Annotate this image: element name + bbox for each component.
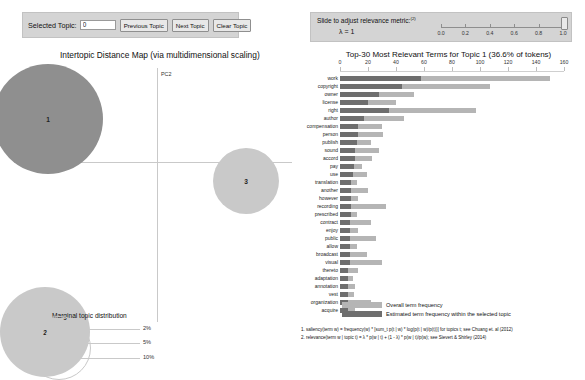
bar-topic-frequency[interactable] (340, 236, 350, 241)
term-label[interactable]: accord (323, 155, 338, 162)
term-bar-row[interactable]: author (296, 115, 585, 122)
x-tick-label: 20 (365, 59, 371, 65)
term-label[interactable]: broadcast (316, 251, 338, 258)
bar-topic-frequency[interactable] (340, 180, 351, 185)
term-label[interactable]: vest (329, 291, 338, 298)
bar-topic-frequency[interactable] (340, 252, 350, 257)
bar-topic-frequency[interactable] (340, 148, 355, 153)
slider-tick-label: 0.0 (437, 30, 444, 36)
term-label[interactable]: contract (320, 219, 338, 226)
term-bar-row[interactable]: accord (296, 155, 585, 162)
term-bar-row[interactable]: broadcast (296, 251, 585, 258)
previous-topic-button[interactable]: Previous Topic (120, 19, 168, 32)
term-label[interactable]: prescribed (315, 211, 338, 218)
bar-topic-frequency[interactable] (340, 116, 364, 121)
term-bar-row[interactable]: adaptation (296, 275, 585, 282)
bar-topic-frequency[interactable] (340, 212, 351, 217)
bar-topic-frequency[interactable] (340, 244, 350, 249)
bar-topic-frequency[interactable] (340, 108, 389, 113)
term-bar-row[interactable]: enjoy (296, 227, 585, 234)
term-bar-row[interactable]: copyright (296, 83, 585, 90)
term-label[interactable]: adaptation (315, 275, 338, 282)
term-bar-row[interactable]: compensation (296, 123, 585, 130)
term-label[interactable]: translation (315, 179, 338, 186)
term-bar-row[interactable]: person (296, 131, 585, 138)
term-label[interactable]: visual (325, 259, 338, 266)
term-bar-row[interactable]: translation (296, 179, 585, 186)
term-label[interactable]: author (324, 115, 338, 122)
term-bar-row[interactable]: recording (296, 203, 585, 210)
term-label[interactable]: organization (311, 299, 338, 306)
slider-track[interactable] (441, 27, 563, 28)
term-bar-row[interactable]: right (296, 107, 585, 114)
term-label[interactable]: work (327, 75, 338, 82)
term-label[interactable]: another (321, 187, 338, 194)
bar-topic-frequency[interactable] (340, 124, 358, 129)
legend-label-overall: Overall term frequency (386, 302, 443, 308)
term-label[interactable]: thereto (322, 267, 338, 274)
term-label[interactable]: acquire (322, 307, 338, 314)
term-bar-row[interactable]: public (296, 235, 585, 242)
term-bar-row[interactable]: license (296, 99, 585, 106)
term-label[interactable]: compensation (307, 123, 338, 130)
size-legend-label-5pct: 5% (143, 339, 151, 345)
term-bar-row[interactable]: allow (296, 243, 585, 250)
term-label[interactable]: owner (324, 91, 338, 98)
term-bar-row[interactable]: publish (296, 139, 585, 146)
bar-topic-frequency[interactable] (340, 100, 368, 105)
bar-topic-frequency[interactable] (340, 156, 355, 161)
bar-topic-frequency[interactable] (340, 276, 348, 281)
bar-topic-frequency[interactable] (340, 92, 379, 97)
bar-topic-frequency[interactable] (340, 164, 354, 169)
x-tick (396, 67, 397, 71)
term-label[interactable]: person (323, 131, 338, 138)
bar-topic-frequency[interactable] (340, 132, 358, 137)
bar-topic-frequency[interactable] (340, 84, 402, 89)
topic-bubble-3[interactable]: 3 (213, 148, 279, 214)
term-bar-row[interactable]: another (296, 187, 585, 194)
term-label[interactable]: however (319, 195, 338, 202)
term-label[interactable]: publish (322, 139, 338, 146)
term-label[interactable]: enjoy (326, 227, 338, 234)
bar-topic-frequency[interactable] (340, 172, 353, 177)
term-label[interactable]: sound (324, 147, 338, 154)
term-bar-row[interactable]: work (296, 75, 585, 82)
selected-topic-input[interactable] (80, 20, 116, 30)
bar-topic-frequency[interactable] (340, 228, 350, 233)
term-label[interactable]: public (325, 235, 338, 242)
bar-topic-frequency[interactable] (340, 204, 351, 209)
term-label[interactable]: copyright (318, 83, 338, 90)
slider-handle[interactable] (561, 17, 568, 30)
term-bar-row[interactable]: visual (296, 259, 585, 266)
bar-topic-frequency[interactable] (340, 140, 357, 145)
term-label[interactable]: allow (327, 243, 338, 250)
term-label[interactable]: pay (330, 163, 338, 170)
term-label[interactable]: annotation (315, 283, 338, 290)
term-bar-row[interactable]: vest (296, 291, 585, 298)
term-bar-row[interactable]: however (296, 195, 585, 202)
next-topic-button[interactable]: Next Topic (172, 19, 209, 32)
term-bar-row[interactable]: owner (296, 91, 585, 98)
term-bar-row[interactable]: pay (296, 163, 585, 170)
term-label[interactable]: use (330, 171, 338, 178)
term-label[interactable]: recording (317, 203, 338, 210)
slider-tick-label: 0.4 (486, 30, 493, 36)
term-bar-row[interactable]: sound (296, 147, 585, 154)
bar-topic-frequency[interactable] (340, 268, 348, 273)
term-bar-row[interactable]: thereto (296, 267, 585, 274)
bar-topic-frequency[interactable] (340, 196, 351, 201)
clear-topic-button[interactable]: Clear Topic (213, 19, 252, 32)
term-bar-row[interactable]: prescribed (296, 211, 585, 218)
term-bar-row[interactable]: contract (296, 219, 585, 226)
term-bar-row[interactable]: use (296, 171, 585, 178)
bar-topic-frequency[interactable] (340, 292, 348, 297)
term-label[interactable]: license (322, 99, 338, 106)
bar-topic-frequency[interactable] (340, 76, 421, 81)
term-label[interactable]: right (328, 107, 338, 114)
bar-topic-frequency[interactable] (340, 188, 351, 193)
term-bar-row[interactable]: annotation (296, 283, 585, 290)
topic-bubble-1[interactable]: 1 (0, 64, 103, 174)
bar-topic-frequency[interactable] (340, 220, 350, 225)
bar-topic-frequency[interactable] (340, 284, 348, 289)
bar-topic-frequency[interactable] (340, 260, 350, 265)
